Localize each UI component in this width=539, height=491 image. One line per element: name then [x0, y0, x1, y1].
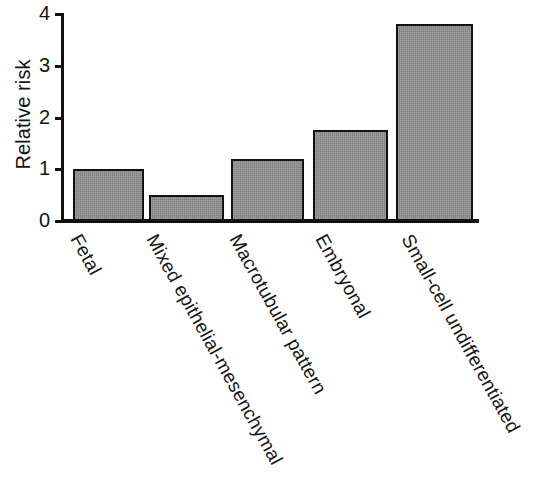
- x-axis-category-label: Mixed epithelial-mesenchymal: [143, 231, 286, 468]
- x-axis-category-label: Small-cell undifferentiated: [398, 231, 523, 436]
- x-axis-category-labels: FetalMixed epithelial-mesenchymalMacrotu…: [0, 0, 539, 491]
- x-axis-category-label: Macrotubular pattern: [226, 231, 330, 397]
- chart-figure: Relative risk 01234 FetalMixed epithelia…: [0, 0, 539, 491]
- x-axis-category-label: Embryonal: [312, 231, 374, 321]
- x-axis-category-label: Fetal: [67, 231, 105, 278]
